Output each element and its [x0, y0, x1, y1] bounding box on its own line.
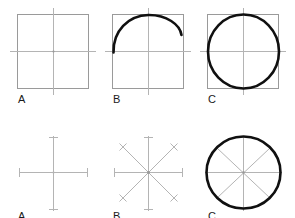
figure-background: [0, 0, 295, 218]
circle-construction-figure: A B C A: [0, 0, 295, 218]
panel-label-row1-b: B: [113, 93, 120, 105]
panel-label-row1-c: C: [208, 93, 216, 105]
panel-label-row1-a: A: [18, 93, 26, 105]
center-dot: [52, 171, 54, 173]
panel-label-row2-c: C: [208, 210, 216, 218]
center-dot: [147, 171, 150, 174]
panel-label-row2-b: B: [113, 210, 120, 218]
center-dot: [242, 171, 244, 173]
panel-label-row2-a: A: [18, 210, 26, 218]
center-dot: [52, 50, 54, 52]
